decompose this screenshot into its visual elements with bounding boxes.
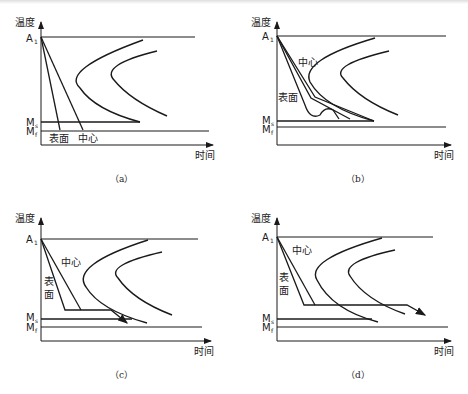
center-label: 中心 [292, 244, 312, 256]
center-label: 中心 [61, 256, 81, 268]
a1-sub: 1 [270, 237, 274, 244]
c-curve-start [315, 238, 382, 322]
a1-sub: 1 [270, 36, 274, 43]
ms-sub: s [35, 317, 38, 324]
x-axis-label: 时间 [194, 345, 214, 357]
a1-sub: 1 [34, 38, 38, 45]
a1-label: A [26, 234, 33, 245]
c-curve-finish [341, 51, 398, 115]
mf-sub: f [271, 327, 274, 334]
panel-c [41, 218, 211, 341]
surface-label-bottom: 面 [279, 285, 289, 296]
c-curve-start [76, 40, 143, 122]
x-axis-label: 时间 [434, 149, 454, 161]
ms-sub: s [35, 122, 38, 129]
panel-b [277, 22, 451, 145]
x-axis-label: 时间 [434, 345, 454, 357]
panel-c-labels: 温度 A 1 M s M f 中心 表 面 时间 （c） [15, 212, 214, 380]
surface-cooling-curve [41, 37, 60, 130]
center-label: 中心 [298, 56, 318, 68]
y-axis-label: 温度 [251, 16, 271, 28]
y-axis-label: 温度 [15, 16, 35, 28]
surface-label-bottom: 面 [44, 289, 54, 300]
a1-sub: 1 [34, 239, 38, 246]
mf-label: M [262, 322, 271, 333]
surface-cooling-curve [277, 36, 339, 119]
surface-label-top: 表 [44, 275, 54, 287]
a1-label: A [26, 33, 33, 44]
panel-a [41, 22, 213, 145]
mf-label: M [262, 124, 271, 135]
surface-label: 表面 [49, 132, 69, 144]
c-curve-finish [116, 252, 172, 315]
mf-sub: f [271, 129, 274, 136]
center-cooling-curve [277, 36, 374, 121]
y-axis-label: 温度 [251, 212, 271, 224]
a1-label: A [262, 232, 269, 243]
panel-caption: （b） [346, 174, 370, 184]
panel-caption: （c） [110, 370, 133, 380]
mf-label: M [26, 126, 35, 137]
c-curve-finish [111, 51, 167, 116]
mf-label: M [26, 322, 35, 333]
surface-label: 表面 [278, 91, 298, 103]
panel-b-labels: 温度 A 1 M s M f 中心 表面 时间 （b） [251, 16, 454, 184]
panel-caption: （a） [110, 174, 133, 184]
ms-sub: s [271, 120, 274, 127]
cooling-curves-figure: 温度 A 1 M s M f 表面 中心 时间 （a） 温度 A 1 M s M… [0, 0, 468, 394]
panel-a-labels: 温度 A 1 M s M f 表面 中心 时间 （a） [15, 16, 215, 184]
ms-sub: s [271, 318, 274, 325]
x-axis-label: 时间 [195, 149, 215, 161]
a1-label: A [262, 31, 269, 42]
mf-sub: f [35, 327, 38, 334]
panel-d [277, 218, 451, 341]
y-axis-label: 温度 [15, 212, 35, 224]
mf-sub: f [35, 131, 38, 138]
center-label: 中心 [78, 132, 98, 144]
panel-caption: （d） [346, 370, 370, 380]
surface-label-top: 表 [279, 271, 289, 283]
